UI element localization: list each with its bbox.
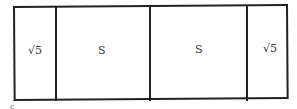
cell-label-s-1: S	[98, 45, 106, 57]
cell-label-right-root5: √5	[263, 43, 277, 55]
cell-label-left-root5: √5	[28, 45, 42, 57]
partitioned-rectangle-diagram: √5 S S √5 c	[0, 0, 297, 109]
divider-line-3	[246, 6, 248, 101]
divider-line-1	[55, 6, 57, 101]
vertex-label-bottom-left: c	[10, 103, 14, 109]
cell-label-s-2: S	[195, 44, 203, 56]
divider-line-2	[149, 6, 151, 101]
